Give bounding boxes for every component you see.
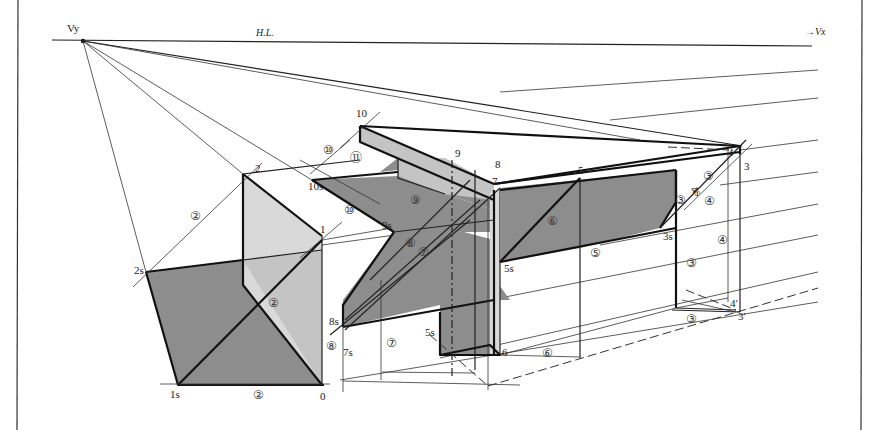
step-8-b: ⑧ xyxy=(405,236,416,250)
label-p10: 10 xyxy=(356,107,368,119)
label-p0: 0 xyxy=(320,390,326,402)
label-p1: 1 xyxy=(320,223,326,235)
step-3-d: ③ xyxy=(703,169,714,183)
right-border xyxy=(861,0,862,430)
label-p8s: 8s xyxy=(329,315,339,327)
horizon-label: H.L. xyxy=(255,27,274,38)
label-p3prime: 3′ xyxy=(738,310,746,322)
horizon-line xyxy=(52,40,812,46)
label-p9s: 9s xyxy=(382,219,392,231)
step-10-b: ⑩ xyxy=(344,203,355,217)
vanishing-point-vy-label: Vy xyxy=(67,22,80,34)
step-10-a: ⑩ xyxy=(323,143,334,157)
step-2-bottom: ② xyxy=(253,388,264,402)
label-p7s: 7s xyxy=(343,346,353,358)
label-p9: 9 xyxy=(455,147,461,159)
label-p4: 4 xyxy=(728,146,734,158)
step-4-b: ④ xyxy=(704,194,715,208)
vanishing-point-vx-label: →Vx xyxy=(805,26,826,37)
step-3-c: ③ xyxy=(675,193,686,207)
label-p1s: 1s xyxy=(170,388,180,400)
step-2-left: ② xyxy=(190,209,201,223)
step-7-a: ⑦ xyxy=(386,336,397,350)
step-7-b: ⑦ xyxy=(418,245,429,259)
step-4-a: ④ xyxy=(717,233,728,247)
step-3-b: ③ xyxy=(686,312,697,326)
left-border xyxy=(17,0,18,430)
step-8-a: ⑧ xyxy=(326,339,337,353)
step-3-a: ③ xyxy=(686,256,697,270)
step-6-b: ⑥ xyxy=(542,346,553,360)
label-p3s: 3s xyxy=(663,230,673,242)
step-5: ⑤ xyxy=(590,246,601,260)
label-p7: 7 xyxy=(492,175,498,187)
label-p5s-lower: 5s xyxy=(425,326,435,338)
label-p8: 8 xyxy=(495,158,501,170)
step-11: ⑪ xyxy=(350,151,362,165)
label-p2: 2 xyxy=(255,162,261,174)
label-p5: 5 xyxy=(578,164,584,176)
step-6-a: ⑥ xyxy=(547,214,558,228)
label-p4prime: 4′ xyxy=(730,297,738,309)
step-2-mid: ② xyxy=(268,296,279,310)
label-p10s: 10s xyxy=(308,180,323,192)
label-p2s: 2s xyxy=(134,264,144,276)
perspective-shadow-diagram: H.L. →Vx Vy xyxy=(0,0,873,430)
right-wall-cast-shadow xyxy=(500,170,676,262)
label-p3: 3 xyxy=(744,160,750,172)
label-p5s-upper: 5s xyxy=(504,262,514,274)
label-p6: 6 xyxy=(502,346,508,358)
step-9: ⑨ xyxy=(410,193,421,207)
